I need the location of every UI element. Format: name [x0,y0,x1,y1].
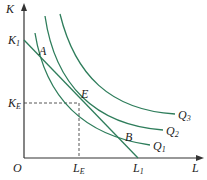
x-axis-label: L [192,162,199,174]
isoquant-diagram: K L O K1 KE LE L1 A E B Q1 Q2 Q3 [0,0,207,180]
q1-label: Q1 [153,140,166,154]
isoquant-q3 [60,14,175,114]
diagram-canvas [0,0,207,180]
q2-label: Q2 [166,125,179,139]
l1-label: L1 [133,162,144,176]
ke-label: KE [8,97,21,111]
le-label: LE [73,162,85,176]
isoquant-q2 [45,16,163,130]
y-axis-label: K [6,3,14,15]
origin-label: O [13,162,22,174]
point-b-label: B [125,131,132,143]
q3-label: Q3 [178,109,191,123]
isoquant-q1 [35,33,150,145]
k1-label: K1 [8,34,20,48]
y-axis-arrow-icon [21,3,27,11]
point-e-label: E [81,88,88,100]
point-a-label: A [39,45,46,57]
